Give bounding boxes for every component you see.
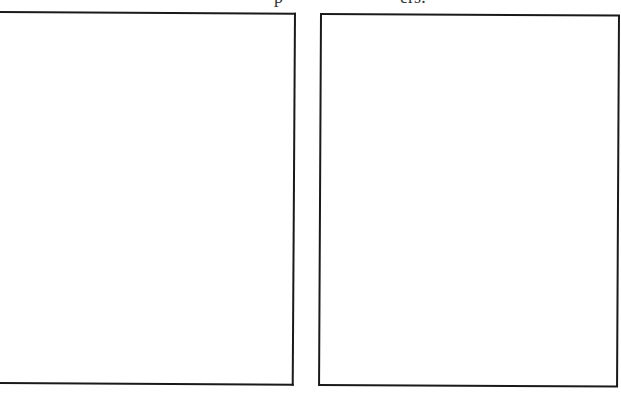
right-box-content [322, 15, 618, 17]
left-box-content [0, 13, 294, 15]
clipped-heading-fragment-right: ers: [400, 0, 426, 8]
right-answer-box [318, 13, 620, 388]
left-answer-box [0, 11, 296, 386]
clipped-heading-fragment-left: p [274, 0, 283, 8]
